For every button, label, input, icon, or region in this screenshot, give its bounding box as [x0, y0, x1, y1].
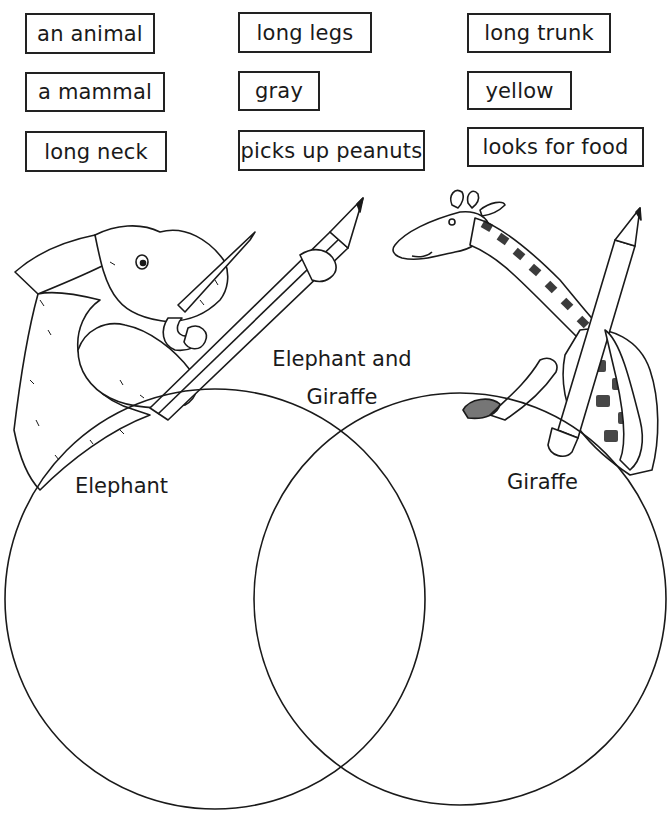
word-card-looks-for-food[interactable]: looks for food [467, 127, 644, 167]
overlap-label: Elephant and Giraffe [262, 340, 422, 416]
overlap-label-line1: Elephant and [262, 340, 422, 378]
word-card-gray[interactable]: gray [238, 71, 320, 111]
overlap-label-line2: Giraffe [262, 378, 422, 416]
elephant-circle-label: Elephant [75, 474, 168, 498]
giraffe-circle-label: Giraffe [507, 470, 578, 494]
word-card-yellow[interactable]: yellow [467, 71, 572, 110]
word-card-long-neck[interactable]: long neck [25, 131, 167, 172]
word-card-picks-up-peanuts[interactable]: picks up peanuts [238, 130, 425, 171]
giraffe-illustration [393, 190, 658, 475]
word-card-a-mammal[interactable]: a mammal [25, 72, 165, 112]
word-card-long-trunk[interactable]: long trunk [467, 13, 611, 53]
word-card-an-animal[interactable]: an animal [25, 13, 155, 54]
word-card-long-legs[interactable]: long legs [238, 12, 372, 53]
